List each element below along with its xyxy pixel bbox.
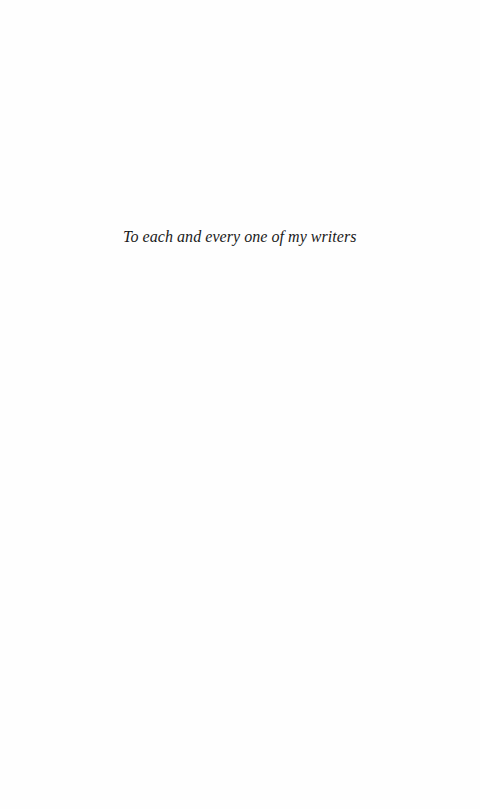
book-page: To each and every one of my writers [0,0,480,809]
dedication-text: To each and every one of my writers [123,227,357,247]
